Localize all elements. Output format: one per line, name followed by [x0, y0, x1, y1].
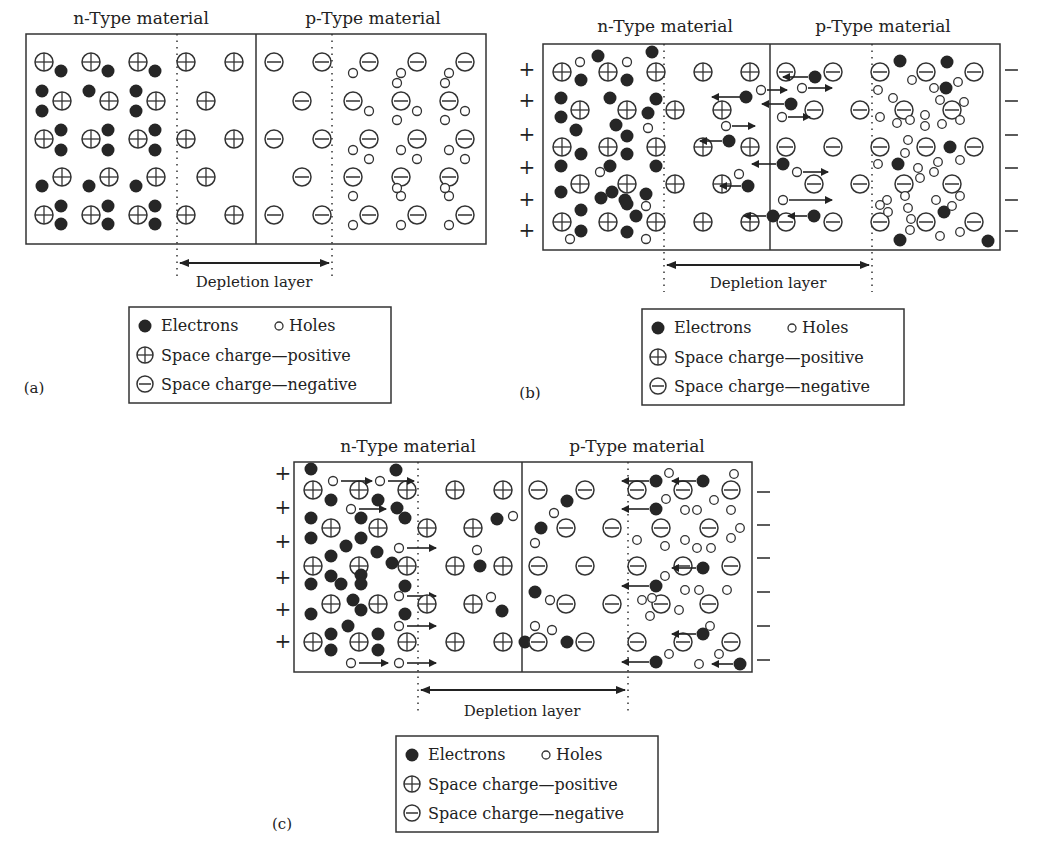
electron-icon — [305, 463, 318, 476]
positive-terminal-icon: + — [519, 218, 536, 242]
electron-icon — [785, 98, 798, 111]
positive-space-charge-icon — [694, 63, 712, 81]
hole-icon — [930, 168, 939, 177]
hole-icon — [661, 542, 670, 551]
legend-positive-label: Space charge—positive — [674, 348, 864, 367]
electron-icon — [894, 234, 907, 247]
positive-space-charge-icon — [177, 53, 195, 71]
electron-icon — [372, 644, 385, 657]
hole-icon — [884, 208, 893, 217]
hole-icon — [736, 524, 745, 533]
electron-icon — [940, 82, 953, 95]
panel-caption: (a) — [24, 379, 45, 397]
electron-icon — [102, 200, 115, 213]
hole-icon — [710, 496, 719, 505]
electron-icon — [355, 604, 368, 617]
negative-space-charge-icon — [650, 378, 666, 394]
positive-space-charge-icon — [304, 633, 322, 651]
particles — [553, 46, 995, 248]
negative-space-charge-icon — [529, 633, 547, 651]
electron-icon — [650, 475, 663, 488]
negative-space-charge-icon — [777, 138, 795, 156]
electron-icon — [305, 608, 318, 621]
electron-icon — [325, 494, 338, 507]
n-type-label: n-Type material — [340, 436, 476, 456]
negative-space-charge-icon — [628, 557, 646, 575]
hole-icon — [546, 596, 555, 605]
negative-space-charge-icon — [529, 481, 547, 499]
electron-icon — [83, 85, 96, 98]
positive-terminal-icon: + — [275, 565, 292, 589]
panel-caption: (c) — [272, 815, 292, 833]
negative-space-charge-icon — [265, 53, 283, 71]
electron-icon — [149, 218, 162, 231]
hole-icon — [393, 116, 402, 125]
negative-space-charge-icon — [851, 175, 869, 193]
electron-icon — [561, 495, 574, 508]
hole-icon — [644, 124, 653, 133]
positive-space-charge-icon — [82, 53, 100, 71]
p-type-label: p-Type material — [305, 8, 441, 28]
positive-space-charge-icon — [647, 213, 665, 231]
electron-icon — [399, 580, 412, 593]
electron-icon — [646, 46, 659, 59]
hole-icon — [566, 235, 575, 244]
hole-icon — [695, 586, 704, 595]
electron-icon — [621, 148, 634, 161]
depletion-label: Depletion layer — [710, 274, 828, 292]
positive-terminal-icon: + — [275, 629, 292, 653]
hole-icon — [661, 572, 670, 581]
positive-space-charge-icon — [599, 63, 617, 81]
positive-space-charge-icon — [404, 776, 420, 792]
positive-space-charge-icon — [713, 175, 731, 193]
hole-icon — [445, 221, 454, 230]
electron-icon — [650, 503, 663, 516]
electron-icon — [335, 578, 348, 591]
positive-space-charge-icon — [82, 206, 100, 224]
negative-space-charge-icon — [700, 595, 718, 613]
depletion-label: Depletion layer — [196, 273, 314, 291]
negative-space-charge-icon — [313, 206, 331, 224]
hole-icon — [275, 322, 283, 330]
positive-space-charge-icon — [350, 481, 368, 499]
negative-space-charge-icon — [408, 53, 426, 71]
negative-space-charge-icon — [392, 168, 410, 186]
legend-holes-label: Holes — [802, 318, 848, 337]
electron-icon — [36, 180, 49, 193]
legend-electrons-label: Electrons — [674, 318, 751, 337]
positive-terminal-icon: + — [275, 597, 292, 621]
electron-icon — [55, 218, 68, 231]
hole-icon — [596, 168, 605, 177]
electron-icon — [740, 91, 753, 104]
negative-space-charge-icon — [440, 92, 458, 110]
hole-icon — [727, 534, 736, 543]
negative-space-charge-icon — [917, 138, 935, 156]
positive-space-charge-icon — [494, 557, 512, 575]
electron-icon — [575, 225, 588, 238]
positive-space-charge-icon — [369, 595, 387, 613]
negative-space-charge-icon — [722, 633, 740, 651]
electron-icon — [982, 235, 995, 248]
electron-icon — [399, 608, 412, 621]
electron-icon — [139, 320, 152, 333]
hole-icon — [365, 155, 374, 164]
negative-space-charge-icon — [440, 168, 458, 186]
negative-space-charge-icon — [700, 519, 718, 537]
electron-icon — [340, 540, 353, 553]
positive-space-charge-icon — [322, 595, 340, 613]
electron-icon — [697, 562, 710, 575]
hole-icon — [932, 196, 941, 205]
hole-icon — [395, 659, 404, 668]
hole-icon — [329, 477, 338, 486]
electron-icon — [325, 628, 338, 641]
electron-icon — [642, 107, 655, 120]
hole-icon — [576, 58, 585, 67]
depletion-label: Depletion layer — [464, 702, 582, 720]
hole-icon — [648, 594, 657, 603]
electron-icon — [604, 92, 617, 105]
hole-icon — [889, 94, 898, 103]
hole-icon — [623, 58, 632, 67]
negative-space-charge-icon — [557, 519, 575, 537]
electron-icon — [55, 124, 68, 137]
hole-icon — [960, 98, 969, 107]
